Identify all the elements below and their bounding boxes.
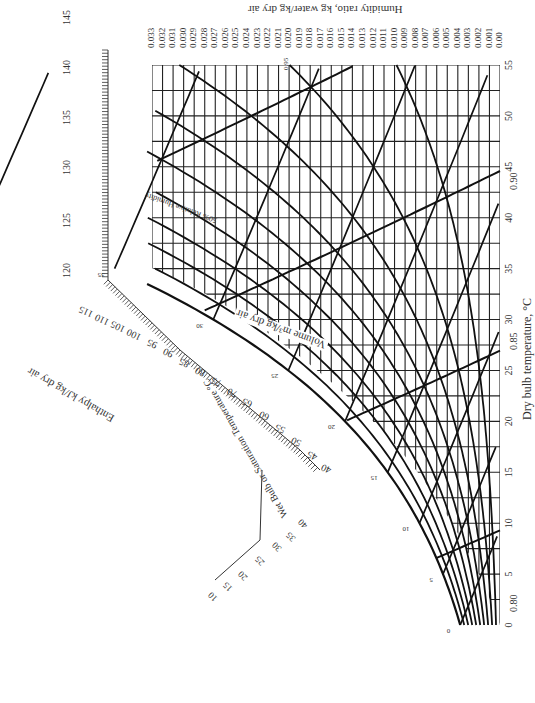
svg-text:0.008: 0.008 xyxy=(410,27,420,48)
volume-085-label: 0.85 xyxy=(508,333,519,351)
svg-text:0.019: 0.019 xyxy=(294,27,304,48)
rh-curve-60 xyxy=(156,192,476,625)
svg-text:35: 35 xyxy=(97,271,105,279)
svg-text:25: 25 xyxy=(271,372,279,380)
svg-text:15: 15 xyxy=(503,467,514,477)
svg-text:0.024: 0.024 xyxy=(241,27,251,48)
svg-text:0.014: 0.014 xyxy=(346,27,356,48)
svg-text:60: 60 xyxy=(257,409,271,423)
svg-text:140: 140 xyxy=(61,60,72,75)
svg-text:95: 95 xyxy=(145,337,159,351)
svg-text:0.005: 0.005 xyxy=(441,27,451,48)
svg-text:35: 35 xyxy=(503,264,514,274)
svg-text:10: 10 xyxy=(206,590,220,604)
svg-text:20: 20 xyxy=(503,416,514,426)
svg-text:0.015: 0.015 xyxy=(336,27,346,48)
volume-090-label: 0.90 xyxy=(508,173,519,191)
svg-text:10: 10 xyxy=(503,518,514,528)
svg-text:15: 15 xyxy=(221,580,235,594)
svg-text:115: 115 xyxy=(77,304,95,320)
svg-text:105: 105 xyxy=(109,319,127,335)
svg-text:0.004: 0.004 xyxy=(452,27,462,48)
svg-text:0.031: 0.031 xyxy=(167,28,177,48)
svg-text:30: 30 xyxy=(196,322,204,330)
svg-text:0.001: 0.001 xyxy=(484,28,494,48)
svg-text:0.028: 0.028 xyxy=(199,27,209,48)
svg-text:45: 45 xyxy=(503,162,514,172)
svg-text:0.016: 0.016 xyxy=(325,27,335,48)
svg-text:110: 110 xyxy=(93,312,111,328)
svg-text:0.007: 0.007 xyxy=(420,27,430,48)
svg-text:35: 35 xyxy=(284,530,298,544)
svg-text:120: 120 xyxy=(61,263,72,278)
svg-text:0.002: 0.002 xyxy=(473,28,483,48)
svg-text:0.023: 0.023 xyxy=(252,27,262,48)
svg-text:0.030: 0.030 xyxy=(178,27,188,48)
svg-text:40: 40 xyxy=(296,517,310,531)
svg-text:0.009: 0.009 xyxy=(399,27,409,48)
svg-text:25: 25 xyxy=(253,554,267,568)
svg-text:0.018: 0.018 xyxy=(304,27,314,48)
svg-text:0: 0 xyxy=(503,623,514,628)
svg-text:85: 85 xyxy=(177,356,191,370)
svg-text:50: 50 xyxy=(503,111,514,121)
svg-text:0.025: 0.025 xyxy=(230,27,240,48)
svg-text:0.020: 0.020 xyxy=(283,27,293,48)
svg-text:70: 70 xyxy=(225,386,239,400)
svg-text:40: 40 xyxy=(319,462,333,476)
svg-text:40: 40 xyxy=(503,213,514,223)
svg-text:25: 25 xyxy=(503,365,514,375)
dry-bulb-axis-title: Dry bulb temperature, °C xyxy=(520,298,535,420)
svg-text:135: 135 xyxy=(61,110,72,125)
svg-text:125: 125 xyxy=(61,213,72,228)
svg-text:130: 130 xyxy=(61,160,72,175)
humidity-axis-title: Humidity ratio, kg water/kg dry air xyxy=(248,4,403,16)
svg-text:0.033: 0.033 xyxy=(146,27,156,48)
svg-text:55: 55 xyxy=(503,60,514,70)
volume-095-label: 0.95 xyxy=(282,58,290,70)
svg-text:145: 145 xyxy=(61,10,72,25)
svg-text:0.012: 0.012 xyxy=(368,28,378,48)
svg-text:0.010: 0.010 xyxy=(389,27,399,48)
svg-text:10: 10 xyxy=(402,525,410,533)
svg-text:0.027: 0.027 xyxy=(209,27,219,48)
svg-text:0: 0 xyxy=(446,627,450,635)
psychrometric-chart: 0510152025303540455055051015202530354045… xyxy=(0,0,535,703)
svg-text:0.029: 0.029 xyxy=(188,27,198,48)
svg-text:100: 100 xyxy=(125,327,143,343)
svg-text:0.026: 0.026 xyxy=(220,27,230,48)
svg-text:45: 45 xyxy=(305,449,319,463)
svg-text:30: 30 xyxy=(270,540,284,554)
svg-text:0.003: 0.003 xyxy=(462,27,472,48)
svg-text:0.021: 0.021 xyxy=(273,28,283,48)
svg-text:30: 30 xyxy=(503,315,514,325)
svg-text:15: 15 xyxy=(370,474,378,482)
svg-text:0.00: 0.00 xyxy=(494,32,504,48)
svg-text:50: 50 xyxy=(289,435,303,449)
svg-text:0.011: 0.011 xyxy=(378,28,388,48)
svg-text:0.032: 0.032 xyxy=(157,28,167,48)
svg-text:0.006: 0.006 xyxy=(431,27,441,48)
svg-text:0.022: 0.022 xyxy=(262,28,272,48)
svg-text:20: 20 xyxy=(328,423,336,431)
rh-curve-80 xyxy=(148,243,468,625)
svg-text:0.013: 0.013 xyxy=(357,27,367,48)
svg-text:5: 5 xyxy=(503,572,514,577)
svg-text:0.017: 0.017 xyxy=(315,27,325,48)
volume-080-label: 0.80 xyxy=(508,595,519,613)
rh-curve-50 xyxy=(147,152,480,626)
svg-text:5: 5 xyxy=(429,576,433,584)
svg-text:20: 20 xyxy=(236,569,250,583)
